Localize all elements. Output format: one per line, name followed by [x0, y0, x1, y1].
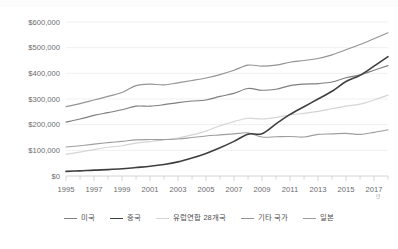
x-tick-label: 2007 [226, 185, 243, 194]
x-axis-tickmarks [66, 176, 388, 181]
line-chart: $0$100,000$200,000$300,000$400,000$500,0… [0, 0, 398, 249]
legend-label: 유럽연합 28개국 [173, 214, 225, 221]
x-tick-label: 1995 [58, 185, 75, 194]
y-tick-label: $100,000 [28, 146, 60, 155]
y-tick-label: $0 [52, 172, 60, 181]
series-line [66, 66, 388, 122]
legend-line-swatch [241, 218, 254, 219]
x-axis-unit: 년 [376, 193, 380, 199]
legend-label: 일본 [320, 214, 334, 221]
x-tick-label: 2001 [142, 185, 159, 194]
x-axis-tick-labels: 1995199719992001200320052007200920112013… [58, 185, 383, 194]
chart-legend: 미국중국유럽연합 28개국기타 국가일본 [0, 206, 398, 230]
y-tick-label: $600,000 [28, 18, 60, 27]
y-tick-label: $300,000 [28, 95, 60, 104]
legend-item[interactable]: 유럽연합 28개국 [156, 214, 225, 221]
x-tick-label: 2017 [366, 185, 383, 194]
legend-item[interactable]: 중국 [110, 214, 141, 221]
series-line [66, 33, 388, 107]
legend-item[interactable]: 기타 국가 [241, 214, 288, 221]
y-axis-tick-labels: $0$100,000$200,000$300,000$400,000$500,0… [28, 18, 60, 181]
y-tick-label: $200,000 [28, 120, 60, 129]
plot-area: $0$100,000$200,000$300,000$400,000$500,0… [0, 0, 398, 200]
legend-line-swatch [64, 218, 77, 219]
legend-label: 기타 국가 [258, 214, 288, 221]
x-tick-label: 2013 [310, 185, 327, 194]
x-tick-label: 2011 [282, 185, 298, 194]
legend-line-swatch [303, 218, 316, 219]
legend-label: 중국 [127, 214, 141, 221]
legend-item[interactable]: 일본 [303, 214, 334, 221]
legend-line-swatch [156, 218, 169, 219]
y-tick-label: $500,000 [28, 43, 60, 52]
x-axis-unit-label: 년 [376, 193, 380, 199]
legend-line-swatch [110, 218, 123, 219]
series-line [66, 57, 388, 172]
legend-item[interactable]: 미국 [64, 214, 95, 221]
x-tick-label: 2005 [198, 185, 215, 194]
legend-label: 미국 [81, 214, 95, 221]
x-tick-label: 2015 [338, 185, 355, 194]
x-tick-label: 1997 [86, 185, 103, 194]
x-tick-label: 2009 [254, 185, 271, 194]
x-tick-label: 2003 [170, 185, 187, 194]
chart-svg: $0$100,000$200,000$300,000$400,000$500,0… [0, 0, 398, 200]
y-tick-label: $400,000 [28, 69, 60, 78]
x-tick-label: 1999 [114, 185, 131, 194]
